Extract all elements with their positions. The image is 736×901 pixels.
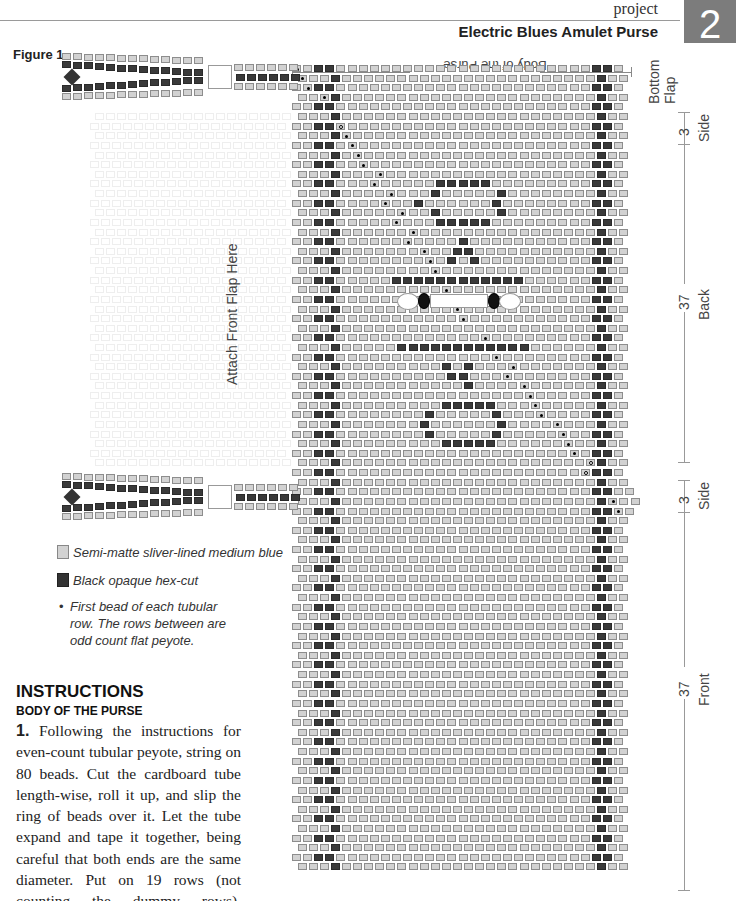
bead	[536, 681, 545, 688]
bead	[603, 642, 612, 649]
bead	[386, 75, 395, 82]
bead	[531, 517, 540, 524]
bead	[514, 488, 523, 495]
bead	[447, 527, 456, 534]
bead	[336, 334, 345, 341]
bead	[314, 796, 323, 803]
bead	[156, 200, 165, 207]
bead	[336, 700, 345, 707]
bead	[470, 142, 479, 149]
bead	[614, 411, 623, 418]
bead	[492, 508, 501, 515]
diamond-bead-icon	[64, 69, 81, 86]
bead	[392, 161, 401, 168]
bead	[531, 209, 540, 216]
bead	[381, 180, 390, 187]
bead	[564, 229, 573, 236]
bead	[336, 719, 345, 726]
bead	[381, 584, 390, 591]
bead	[342, 671, 351, 678]
bead	[575, 402, 584, 409]
bead	[331, 498, 340, 505]
bead	[442, 652, 451, 659]
bead	[266, 277, 275, 284]
bead	[614, 584, 623, 591]
bead	[542, 229, 551, 236]
bead	[320, 536, 329, 543]
bead	[425, 315, 434, 322]
bead	[436, 488, 445, 495]
bead	[271, 344, 280, 351]
bead	[292, 277, 301, 284]
bead	[342, 325, 351, 332]
bead	[492, 180, 501, 187]
bead	[375, 421, 384, 428]
bead	[178, 238, 187, 245]
bead	[508, 806, 517, 813]
bead	[592, 508, 601, 515]
bead	[614, 738, 623, 745]
bead	[431, 94, 440, 101]
bead	[359, 623, 368, 630]
bead	[420, 325, 429, 332]
bead	[586, 421, 595, 428]
bead	[95, 152, 104, 159]
bead	[161, 67, 170, 74]
bead	[303, 354, 312, 361]
bead	[425, 219, 434, 226]
bead	[150, 325, 159, 332]
bead	[156, 315, 165, 322]
bead	[542, 459, 551, 466]
bead	[608, 286, 617, 293]
bead	[514, 508, 523, 515]
bead	[336, 238, 345, 245]
bead	[403, 681, 412, 688]
bead	[95, 286, 104, 293]
bead	[570, 257, 579, 264]
bead	[409, 671, 418, 678]
bead	[425, 123, 434, 130]
bead	[128, 55, 137, 62]
bead	[442, 171, 451, 178]
bead	[470, 238, 479, 245]
bead	[397, 229, 406, 236]
bead	[414, 354, 423, 361]
bead	[325, 488, 334, 495]
bead	[289, 484, 298, 491]
bead	[325, 161, 334, 168]
bead	[342, 286, 351, 293]
bead	[597, 132, 606, 139]
bead	[392, 180, 401, 187]
bead	[292, 296, 301, 303]
bead	[447, 142, 456, 149]
bead	[547, 411, 556, 418]
bead	[84, 54, 93, 61]
bead	[431, 767, 440, 774]
bead	[581, 65, 590, 72]
bead	[336, 84, 345, 91]
bead	[403, 758, 412, 765]
bead	[425, 719, 434, 726]
bead	[436, 334, 445, 341]
bead	[381, 65, 390, 72]
bead	[603, 296, 612, 303]
bead	[592, 277, 601, 284]
bead	[497, 325, 506, 332]
bead	[194, 344, 203, 351]
bead	[459, 815, 468, 822]
bead	[375, 767, 384, 774]
bead	[464, 132, 473, 139]
bead	[508, 248, 517, 255]
bead	[470, 546, 479, 553]
bead	[381, 623, 390, 630]
bead	[603, 469, 612, 476]
bead	[553, 440, 562, 447]
bead	[431, 344, 440, 351]
bead	[581, 796, 590, 803]
bead	[436, 719, 445, 726]
bead	[525, 700, 534, 707]
bead	[277, 238, 286, 245]
bead	[189, 180, 198, 187]
bead	[442, 863, 451, 870]
bead	[364, 113, 373, 120]
